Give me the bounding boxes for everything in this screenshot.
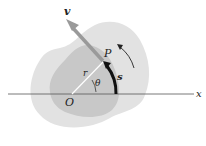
x-axis-label: x: [196, 88, 202, 99]
arc-length-label: s: [117, 71, 123, 82]
theta-label: θ: [95, 78, 101, 88]
radius-label: r: [83, 68, 88, 78]
rotation-diagram: v P O r θ s x: [0, 0, 206, 146]
velocity-arrowhead: [66, 19, 79, 31]
origin-label: O: [65, 96, 74, 109]
point-p-label: P: [103, 47, 112, 60]
velocity-label: v: [64, 5, 71, 18]
